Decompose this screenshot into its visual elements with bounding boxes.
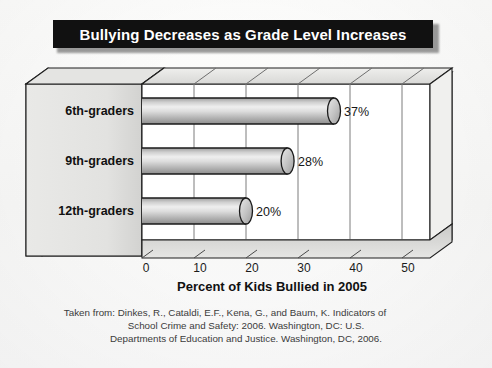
chart-svg: 6th-graders 9th-graders 12th-graders xyxy=(20,60,472,292)
category-label-1: 9th-graders xyxy=(65,154,134,168)
xtick-label-1: 10 xyxy=(193,261,207,275)
left-wall-top-bevel xyxy=(26,68,164,84)
xtick-label-4: 40 xyxy=(349,261,363,275)
chart-plot-area: 6th-graders 9th-graders 12th-graders xyxy=(20,60,472,292)
bar-9th-graders[interactable] xyxy=(142,148,294,174)
bar-body-0 xyxy=(142,98,334,124)
bar-cap-1 xyxy=(281,148,294,174)
value-label-0: 37% xyxy=(344,105,369,119)
bar-body-1 xyxy=(142,148,288,174)
bar-12th-graders[interactable] xyxy=(142,198,253,224)
x-axis-tick-labels: 0 10 20 30 40 50 xyxy=(143,261,415,275)
chart-figure: Bullying Decreases as Grade Level Increa… xyxy=(0,0,492,368)
bar-body-2 xyxy=(142,198,246,224)
bar-cap-2 xyxy=(240,198,253,224)
xtick-label-0: 0 xyxy=(143,261,150,275)
value-label-1: 28% xyxy=(298,155,323,169)
citation-line-1: Taken from: Dinkes, R., Cataldi, E.F., K… xyxy=(0,306,492,319)
bar-6th-graders[interactable] xyxy=(142,98,341,124)
chart-title: Bullying Decreases as Grade Level Increa… xyxy=(80,26,407,43)
source-citation: Taken from: Dinkes, R., Cataldi, E.F., K… xyxy=(0,306,492,346)
x-axis-title: Percent of Kids Bullied in 2005 xyxy=(177,279,367,292)
category-label-0: 6th-graders xyxy=(65,104,134,118)
plot-panel-right xyxy=(430,68,452,240)
xtick-label-2: 20 xyxy=(245,261,259,275)
value-label-2: 20% xyxy=(256,205,281,219)
category-label-2: 12th-graders xyxy=(58,204,134,218)
xtick-label-5: 50 xyxy=(401,261,415,275)
bar-cap-0 xyxy=(328,98,341,124)
citation-line-3: Departments of Education and Justice. Wa… xyxy=(0,332,492,345)
citation-line-2: School Crime and Safety: 2006. Washingto… xyxy=(0,319,492,332)
xtick-label-3: 30 xyxy=(297,261,311,275)
title-banner: Bullying Decreases as Grade Level Increa… xyxy=(53,20,433,48)
